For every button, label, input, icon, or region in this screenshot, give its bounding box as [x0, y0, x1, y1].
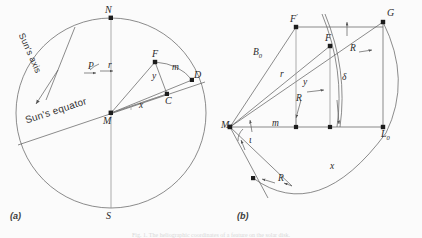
ray-m-to-fprime — [230, 27, 296, 127]
variable-label-coord-y: y — [152, 72, 156, 82]
point-label-l: L0 — [381, 129, 390, 142]
panel-label-b: (b) — [237, 212, 249, 221]
variable-label-b-zero: B0 — [253, 48, 262, 59]
panel-b-point-markers — [228, 20, 386, 180]
r-arrow-mid — [307, 90, 324, 92]
marker-north-pole — [109, 16, 113, 20]
panel-b-artwork — [230, 14, 398, 198]
subscript-glyph-l: 0 — [387, 134, 390, 141]
limb-arc-outer — [383, 22, 398, 133]
r-arrow-right — [359, 50, 372, 52]
lower-arc — [253, 133, 386, 194]
variable-label-iota: ι — [249, 136, 252, 146]
figure-line-art — [0, 0, 422, 238]
ray-m-to-g — [230, 22, 383, 127]
variable-label-coord-y-b: y — [303, 78, 307, 88]
variable-label-radius-R-top: R — [350, 44, 356, 54]
subscript-glyph-b: 0 — [259, 52, 262, 59]
marker-lower-arc-vertex — [251, 176, 255, 180]
r-arrow-lower — [262, 179, 275, 183]
variable-label-radius-R-mid: R — [296, 94, 302, 104]
variable-label-coord-x-b: x — [330, 162, 334, 172]
variable-label-delta: δ — [342, 73, 346, 83]
point-label-f-b: F — [325, 33, 331, 43]
suns-axis-line — [46, 27, 75, 100]
panel-label-a: (a) — [10, 212, 21, 221]
line-m-to-d — [111, 80, 192, 113]
arc-inner-through-f-2 — [325, 14, 342, 127]
ray-m-to-f — [230, 46, 330, 127]
suns-axis-arrow — [36, 70, 58, 104]
segment-y-f-to-c — [155, 62, 167, 94]
point-label-south-pole: S — [106, 211, 111, 221]
variable-label-radius-r: r — [108, 61, 112, 71]
arc-inner-through-f — [322, 14, 339, 127]
marker-m-foot — [294, 125, 298, 129]
variable-label-radius-R-lower: R — [278, 174, 284, 184]
figure-container: Sun's axis Sun's equator N S M F C D P r… — [0, 0, 422, 238]
variable-label-coord-x: x — [139, 101, 143, 111]
variable-label-radius-r-b: r — [280, 70, 284, 80]
marker-f-prime — [294, 25, 298, 29]
point-label-d: D — [194, 70, 201, 80]
point-label-m-b: M — [221, 120, 229, 130]
point-label-c: C — [165, 96, 172, 106]
angle-iota-arrow-up — [250, 120, 252, 132]
point-label-north-pole: N — [105, 5, 112, 15]
figure-caption: Fig. 1. The heliographic coordinates of … — [0, 232, 422, 238]
marker-f-b — [328, 44, 332, 48]
point-label-m: M — [103, 116, 111, 126]
point-label-g: G — [387, 8, 394, 18]
marker-f-foot — [328, 125, 332, 129]
angle-iota-arc-1 — [238, 129, 243, 141]
variable-label-arc-m-b: m — [272, 119, 279, 129]
point-label-f-prime: F' — [290, 13, 298, 24]
marker-g — [381, 20, 385, 24]
prime-glyph: ' — [296, 12, 298, 20]
point-label-f: F — [152, 49, 158, 59]
variable-label-position-angle-p: P — [88, 62, 94, 72]
marker-f — [153, 60, 157, 64]
variable-label-arc-m: m — [172, 63, 179, 73]
